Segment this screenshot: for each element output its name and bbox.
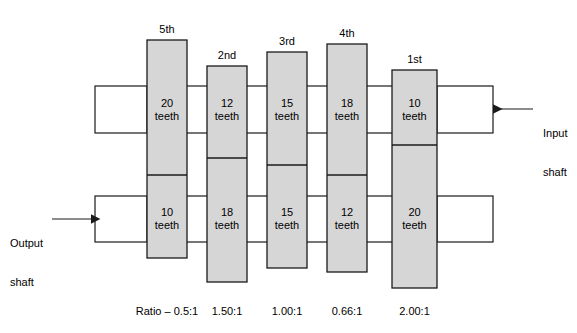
gear-top-teeth-label: 10teeth bbox=[391, 97, 439, 123]
gear-top-teeth-unit: teeth bbox=[323, 110, 371, 123]
gear-name-label: 5th bbox=[145, 23, 189, 36]
gear-ratio-label: 1.00:1 bbox=[257, 305, 317, 318]
gear-ratio-label: 2.00:1 bbox=[385, 305, 445, 318]
output-shaft-label: Output shaft bbox=[10, 211, 43, 315]
gear-column-4th bbox=[327, 44, 367, 272]
upper-shaft-left-block bbox=[95, 86, 147, 133]
gear-bottom-teeth-count: 15 bbox=[263, 206, 311, 219]
gear-name-label: 1st bbox=[393, 53, 437, 66]
output-shaft-label-line2: shaft bbox=[10, 276, 43, 289]
gear-name-label: 3rd bbox=[265, 35, 309, 48]
lower-shaft-right-block bbox=[437, 196, 493, 242]
gear-bottom-teeth-label: 15teeth bbox=[263, 206, 311, 232]
gear-bottom-teeth-unit: teeth bbox=[263, 219, 311, 232]
gear-name-label: 4th bbox=[325, 27, 369, 40]
gear-bottom-teeth-label: 18teeth bbox=[203, 206, 251, 232]
gear-top-teeth-label: 12teeth bbox=[203, 97, 251, 123]
gear-body bbox=[327, 44, 367, 272]
gear-top-teeth-count: 15 bbox=[263, 97, 311, 110]
output-shaft-label-line1: Output bbox=[10, 237, 43, 250]
gear-bottom-teeth-label: 12teeth bbox=[323, 206, 371, 232]
gear-name-label: 2nd bbox=[205, 49, 249, 62]
gear-bottom-teeth-unit: teeth bbox=[143, 219, 191, 232]
gear-top-teeth-unit: teeth bbox=[203, 110, 251, 123]
gear-ratio-label: 0.66:1 bbox=[317, 305, 377, 318]
input-shaft-label-line2: shaft bbox=[543, 166, 567, 179]
gear-top-teeth-unit: teeth bbox=[263, 110, 311, 123]
gear-top-teeth-count: 20 bbox=[143, 97, 191, 110]
input-shaft-block bbox=[437, 86, 493, 133]
gear-bottom-teeth-label: 10teeth bbox=[143, 206, 191, 232]
gear-top-teeth-count: 18 bbox=[323, 97, 371, 110]
gear-top-teeth-unit: teeth bbox=[143, 110, 191, 123]
gearbox-diagram: 5th20teeth10teethRatio – 0.5:12nd12teeth… bbox=[0, 0, 577, 333]
gear-bottom-teeth-count: 18 bbox=[203, 206, 251, 219]
gear-bottom-teeth-unit: teeth bbox=[203, 219, 251, 232]
gear-blocks bbox=[147, 40, 437, 288]
gear-top-teeth-label: 15teeth bbox=[263, 97, 311, 123]
diagram-canvas bbox=[0, 0, 577, 333]
gear-bottom-teeth-count: 12 bbox=[323, 206, 371, 219]
gear-top-teeth-unit: teeth bbox=[391, 110, 439, 123]
gear-top-teeth-label: 18teeth bbox=[323, 97, 371, 123]
output-shaft-block bbox=[95, 196, 147, 242]
gear-bottom-teeth-unit: teeth bbox=[323, 219, 371, 232]
gear-top-teeth-count: 12 bbox=[203, 97, 251, 110]
gear-bottom-teeth-count: 20 bbox=[391, 206, 439, 219]
gear-bottom-teeth-unit: teeth bbox=[391, 219, 439, 232]
gear-top-teeth-label: 20teeth bbox=[143, 97, 191, 123]
input-shaft-label-line1: Input bbox=[543, 127, 567, 140]
gear-bottom-teeth-count: 10 bbox=[143, 206, 191, 219]
gear-top-teeth-count: 10 bbox=[391, 97, 439, 110]
gear-column-3rd bbox=[267, 52, 307, 268]
gear-bottom-teeth-label: 20teeth bbox=[391, 206, 439, 232]
input-shaft-label: Input shaft bbox=[543, 101, 567, 205]
gear-body bbox=[267, 52, 307, 268]
gear-ratio-label: 1.50:1 bbox=[197, 305, 257, 318]
